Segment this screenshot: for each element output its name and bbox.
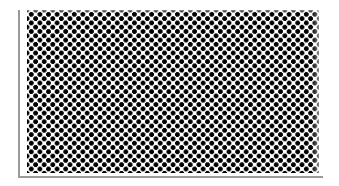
pattern-swatch: Halftone dot pattern xyxy=(0,0,339,186)
frame-left-border xyxy=(18,10,20,178)
halftone-dot-field xyxy=(27,10,319,173)
frame-bottom-border xyxy=(18,176,323,178)
right-edge-fade xyxy=(312,10,320,173)
swatch-label: Halftone dot pattern xyxy=(0,0,1,1)
top-edge-fade xyxy=(27,9,319,13)
